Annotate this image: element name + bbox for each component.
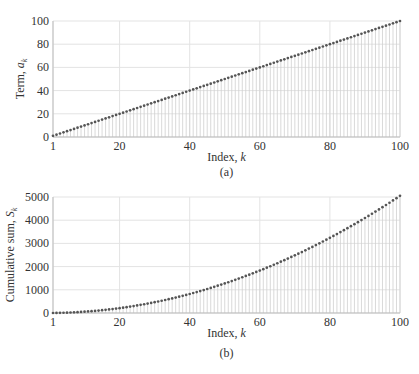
stem-lines [53,196,400,313]
y-axis-label: Term, ak [13,58,29,99]
svg-text:100: 100 [391,139,409,153]
svg-text:2000: 2000 [25,260,49,274]
y-tick-labels: 010002000300040005000 [25,190,49,320]
svg-text:80: 80 [324,315,336,329]
figure: 020406080100120406080100Index, kTerm, ak… [0,0,419,374]
svg-text:40: 40 [184,315,196,329]
svg-text:3000: 3000 [25,236,49,250]
svg-text:1000: 1000 [25,283,49,297]
chart-panel-b: 010002000300040005000120406080100Index, … [3,190,409,360]
panel-caption: (a) [220,165,233,179]
x-axis-label: Index, k [207,326,246,340]
svg-text:0: 0 [43,130,49,144]
chart-panel-a: 020406080100120406080100Index, kTerm, ak… [13,14,409,179]
svg-text:1: 1 [50,139,56,153]
svg-text:100: 100 [31,14,49,28]
svg-text:1: 1 [50,315,56,329]
svg-text:60: 60 [254,315,266,329]
svg-text:5000: 5000 [25,190,49,204]
svg-text:40: 40 [37,84,49,98]
data-markers [52,20,402,138]
svg-text:40: 40 [184,139,196,153]
x-axis-label: Index, k [207,150,246,164]
y-axis-label: Cumulative sum, Sk [3,207,19,302]
y-tick-labels: 020406080100 [31,14,49,144]
data-markers [52,194,402,314]
grid-lines [53,197,400,313]
svg-text:80: 80 [37,37,49,51]
svg-text:80: 80 [324,139,336,153]
svg-text:100: 100 [391,315,409,329]
svg-text:4000: 4000 [25,213,49,227]
svg-text:60: 60 [254,139,266,153]
svg-text:0: 0 [43,306,49,320]
panel-caption: (b) [220,346,234,360]
svg-text:20: 20 [114,315,126,329]
svg-text:20: 20 [114,139,126,153]
svg-text:60: 60 [37,60,49,74]
svg-text:20: 20 [37,107,49,121]
